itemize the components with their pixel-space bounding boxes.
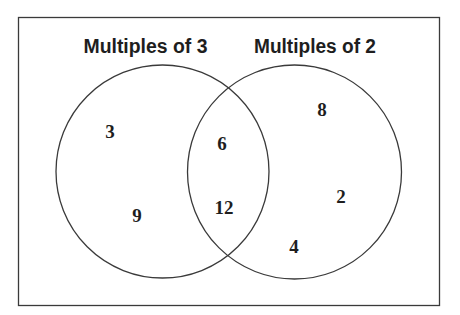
set-label-multiples-of-2: Multiples of 2 [254, 35, 376, 57]
number-intersection: 6 [217, 133, 227, 154]
number-left-only: 3 [105, 121, 115, 142]
set-circle-multiples-of-3 [56, 65, 269, 278]
number-right-only: 4 [289, 236, 299, 257]
frame-border [19, 18, 440, 306]
number-left-only: 9 [132, 205, 142, 226]
number-right-only: 8 [317, 99, 327, 120]
number-intersection: 12 [215, 197, 234, 218]
venn-diagram: Multiples of 3 Multiples of 2 3 9 6 12 8… [0, 0, 460, 315]
number-right-only: 2 [336, 186, 346, 207]
set-label-multiples-of-3: Multiples of 3 [84, 35, 208, 57]
